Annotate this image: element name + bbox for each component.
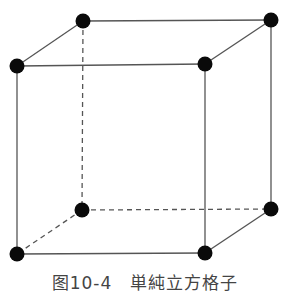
edge-hidden-back-left-vertical	[82, 21, 83, 210]
edge-bottom-right-depth	[205, 209, 271, 253]
atom-front-top-right	[198, 57, 213, 72]
atom-back-top-right	[264, 13, 279, 28]
edge-front-bottom	[17, 253, 205, 254]
edge-top-left-depth	[17, 21, 83, 66]
atom-back-bottom-left	[75, 203, 90, 218]
figure-caption: 图10-4 単純立方格子	[0, 269, 290, 294]
edge-back-top	[83, 20, 271, 21]
edge-hidden-back-bottom	[82, 209, 271, 210]
edge-hidden-bottom-left-depth	[17, 210, 82, 254]
atom-back-top-left	[76, 14, 91, 29]
edge-front-top	[17, 64, 205, 66]
atom-front-bottom-right	[198, 246, 213, 261]
atom-back-bottom-right	[264, 202, 279, 217]
edge-top-right-depth	[205, 20, 271, 64]
atom-front-bottom-left	[10, 247, 25, 262]
atom-front-top-left	[10, 59, 25, 74]
